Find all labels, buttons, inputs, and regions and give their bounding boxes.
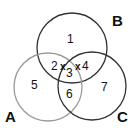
marker-x-right: x	[75, 61, 81, 72]
region-4-label: 4	[82, 59, 89, 73]
region-3-label: 3	[66, 66, 73, 80]
region-5-label: 5	[31, 78, 38, 92]
region-1-label: 1	[67, 32, 74, 46]
set-label-b: B	[112, 12, 123, 29]
region-2-label: 2	[51, 59, 58, 73]
set-label-a: A	[5, 108, 16, 125]
set-label-c: C	[117, 108, 128, 125]
circle-c	[58, 52, 126, 120]
region-7-label: 7	[101, 80, 108, 94]
venn-diagram: B A C 1 2 x 3 x 4 5 6 7	[0, 0, 134, 128]
region-6-label: 6	[66, 87, 73, 101]
